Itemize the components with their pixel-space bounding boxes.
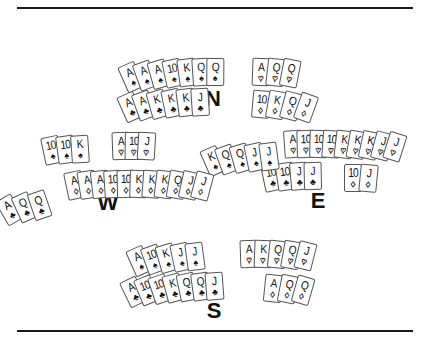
- top-divider: [17, 7, 413, 9]
- card-rank: J: [306, 165, 320, 177]
- spades-icon: ♠: [207, 74, 223, 83]
- card-rank: J: [193, 91, 207, 104]
- card-rank: Q: [296, 278, 312, 293]
- card-rank: J: [362, 167, 377, 180]
- card-rank: Q: [209, 61, 223, 73]
- seat-label-east: E: [311, 188, 326, 214]
- seat-label-south: S: [207, 298, 222, 324]
- card: J♥: [137, 132, 157, 161]
- card-rank: J: [207, 275, 221, 288]
- card-rank: J: [261, 145, 276, 159]
- clubs-icon: ♣: [207, 288, 224, 298]
- bottom-divider: [17, 330, 413, 332]
- spades-icon: ♠: [72, 151, 89, 161]
- card-rank: 10: [346, 167, 360, 179]
- card: J♠: [184, 241, 206, 271]
- spades-icon: ♠: [261, 157, 278, 168]
- clubs-icon: ♣: [192, 104, 209, 114]
- card: J♦: [358, 163, 379, 193]
- card: J♣: [190, 88, 210, 117]
- card: Q♥: [279, 58, 302, 89]
- hearts-icon: ♥: [138, 148, 155, 158]
- clubs-icon: ♣: [305, 178, 321, 187]
- spades-icon: ♠: [187, 257, 204, 268]
- card-rank: K: [72, 138, 86, 151]
- card-rank: Q: [283, 61, 299, 75]
- card-rank: J: [187, 245, 202, 259]
- card: J♠: [258, 141, 280, 171]
- card: K♠: [70, 135, 90, 164]
- hearts-icon: ♥: [280, 74, 297, 86]
- card: J♣: [303, 162, 322, 190]
- diamonds-icon: ♦: [360, 179, 377, 189]
- card-rank: J: [140, 135, 154, 148]
- card: J♣: [204, 272, 224, 301]
- card: Q♠: [206, 58, 224, 86]
